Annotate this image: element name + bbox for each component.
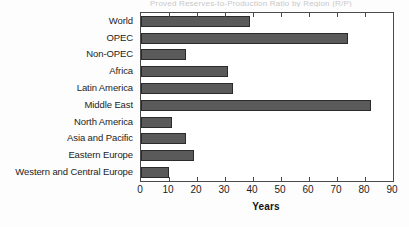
bar-row [141, 30, 393, 47]
category-label: Western and Central Europe [0, 163, 137, 180]
x-axis-tick-mark [365, 177, 366, 181]
category-label: OPEC [0, 29, 137, 46]
plot-area [140, 12, 394, 182]
x-tick-label: 40 [246, 184, 257, 195]
x-axis-tick-mark [169, 13, 170, 17]
bar [141, 49, 186, 60]
x-axis-tick-mark [225, 177, 226, 181]
bar [141, 100, 371, 111]
category-label: Middle East [0, 96, 137, 113]
bar-row [141, 147, 393, 164]
category-label: World [0, 12, 137, 29]
x-axis-tick-mark [281, 177, 282, 181]
cut-off-caption: Proved Reserves-to-Production Ratio by R… [150, 0, 400, 7]
x-axis-tick-mark [281, 13, 282, 17]
category-label: Non-OPEC [0, 46, 137, 63]
x-tick-label: 50 [274, 184, 285, 195]
x-axis-tick-mark [309, 177, 310, 181]
x-tick-label: 90 [386, 184, 397, 195]
bar-row [141, 164, 393, 181]
bar-row [141, 131, 393, 148]
x-tick-label: 10 [162, 184, 173, 195]
x-tick-label: 60 [302, 184, 313, 195]
bar [141, 167, 169, 178]
x-axis-tick-mark [225, 13, 226, 17]
x-axis-tick-mark [309, 13, 310, 17]
category-label: Asia and Pacific [0, 130, 137, 147]
x-tick-label: 20 [190, 184, 201, 195]
category-label: Eastern Europe [0, 146, 137, 163]
category-axis-labels: WorldOPECNon-OPECAfricaLatin AmericaMidd… [0, 12, 137, 180]
bar-row [141, 13, 393, 30]
x-axis-tick-mark [169, 177, 170, 181]
bar-row [141, 114, 393, 131]
x-axis-tick-mark [197, 177, 198, 181]
bar [141, 66, 228, 77]
bar-chart-figure: Proved Reserves-to-Production Ratio by R… [0, 0, 409, 227]
bar-row [141, 97, 393, 114]
x-tick-label: 0 [137, 184, 143, 195]
category-label: Latin America [0, 79, 137, 96]
x-axis-tick-mark [337, 13, 338, 17]
x-axis-tick-mark [253, 13, 254, 17]
x-axis-tick-mark [365, 13, 366, 17]
x-tick-label: 30 [218, 184, 229, 195]
x-tick-label: 70 [330, 184, 341, 195]
x-axis-tick-mark [337, 177, 338, 181]
x-axis-tick-mark [197, 13, 198, 17]
x-axis-tick-mark [253, 177, 254, 181]
bar-row [141, 47, 393, 64]
bars-layer [141, 13, 393, 181]
bar [141, 33, 348, 44]
bar [141, 150, 194, 161]
x-tick-label: 80 [358, 184, 369, 195]
category-label: North America [0, 113, 137, 130]
bar [141, 16, 250, 27]
bar-row [141, 80, 393, 97]
x-axis-title: Years [140, 201, 392, 212]
category-label: Africa [0, 62, 137, 79]
bar-row [141, 63, 393, 80]
bar [141, 83, 233, 94]
bar [141, 117, 172, 128]
bar [141, 133, 186, 144]
x-axis-tick-labels: 0102030405060708090 [140, 184, 392, 198]
